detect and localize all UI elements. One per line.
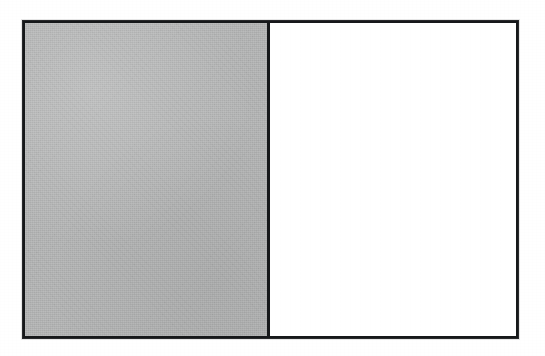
- panel-left-texture: [25, 23, 269, 336]
- figure-frame: [22, 20, 519, 339]
- panel-left-shaded: [25, 23, 270, 336]
- figure-canvas: [0, 0, 545, 356]
- panel-right-texture: [270, 23, 516, 336]
- panel-left-shading: [25, 23, 267, 336]
- panel-right-empty: [270, 23, 516, 336]
